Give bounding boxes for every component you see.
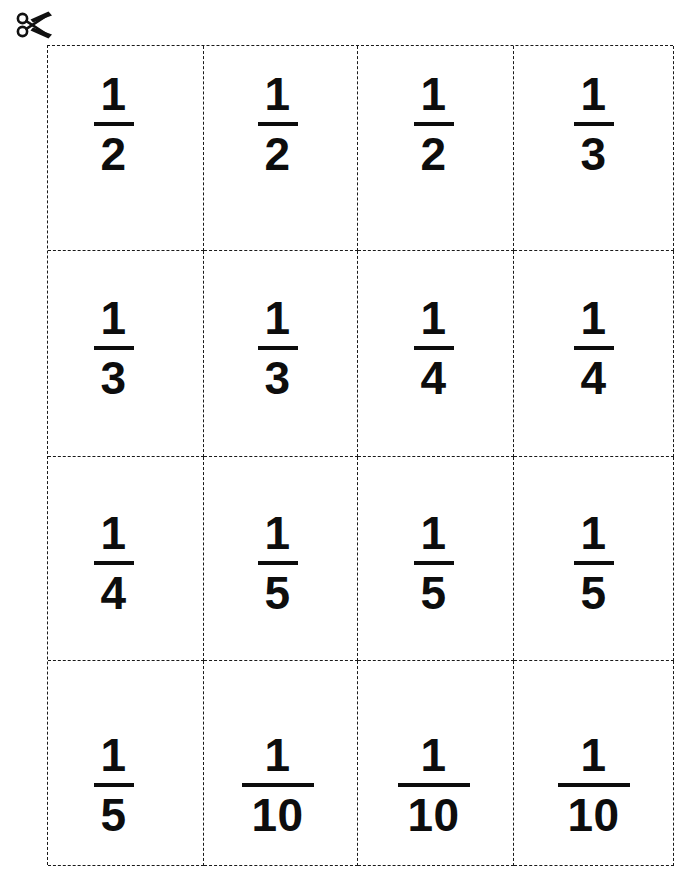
fraction-denominator: 10 [567,790,619,838]
fraction-card: 12 [358,46,514,251]
fraction-numerator: 1 [100,732,126,781]
fraction: 12 [94,71,134,177]
fraction-numerator: 1 [264,510,290,559]
fraction-denominator: 5 [100,790,126,838]
fraction-numerator: 1 [420,295,446,344]
fraction-bar [94,561,134,565]
fraction: 14 [414,295,454,401]
fraction-numerator: 1 [420,71,446,120]
fraction-numerator: 1 [580,71,606,120]
fraction-card: 15 [204,457,358,661]
fraction-denominator: 2 [100,129,126,177]
fraction-card: 15 [48,661,204,866]
fraction-bar [242,783,314,787]
scissors-icon [13,9,57,49]
fraction: 15 [574,510,614,616]
fraction-numerator: 1 [264,295,290,344]
fraction: 13 [574,71,614,177]
fraction-numerator: 1 [100,71,126,120]
fraction-denominator: 10 [251,790,303,838]
fraction-card: 14 [514,251,674,457]
fraction-numerator: 1 [580,732,606,781]
fraction: 14 [94,510,134,616]
fraction-card-grid: 12121213131314141415151515110110110 [47,45,673,865]
fraction: 14 [574,295,614,401]
fraction-card: 110 [514,661,674,866]
fraction-denominator: 4 [100,568,126,616]
fraction-denominator: 5 [264,568,290,616]
fraction-bar [258,346,298,350]
fraction-card: 13 [514,46,674,251]
fraction-numerator: 1 [420,510,446,559]
fraction-denominator: 4 [580,353,606,401]
fraction-bar [94,122,134,126]
fraction-bar [258,122,298,126]
fraction-denominator: 3 [580,129,606,177]
fraction-card: 14 [358,251,514,457]
fraction-denominator: 4 [420,353,446,401]
fraction-numerator: 1 [580,510,606,559]
fraction-bar [258,561,298,565]
fraction-numerator: 1 [100,295,126,344]
fraction-denominator: 10 [407,790,459,838]
fraction-card: 12 [48,46,204,251]
fraction-numerator: 1 [264,71,290,120]
fraction-denominator: 5 [420,568,446,616]
fraction-card: 12 [204,46,358,251]
fraction-card: 15 [358,457,514,661]
fraction-denominator: 3 [264,353,290,401]
fraction-card: 110 [204,661,358,866]
fraction-bar [94,783,134,787]
fraction: 15 [414,510,454,616]
fraction-card: 15 [514,457,674,661]
fraction-denominator: 3 [100,353,126,401]
fraction-card: 14 [48,457,204,661]
fraction-denominator: 2 [420,129,446,177]
fraction: 110 [398,732,470,838]
fraction-bar [94,346,134,350]
fraction: 12 [414,71,454,177]
fraction-numerator: 1 [264,732,290,781]
fraction-bar [414,561,454,565]
fraction-bar [574,122,614,126]
fraction-card: 13 [48,251,204,457]
fraction: 15 [258,510,298,616]
fraction-bar [414,122,454,126]
fraction-card: 110 [358,661,514,866]
fraction-numerator: 1 [420,732,446,781]
fraction-card: 13 [204,251,358,457]
fraction: 15 [94,732,134,838]
fraction-bar [574,346,614,350]
fraction: 12 [258,71,298,177]
fraction-bar [414,346,454,350]
fraction: 110 [242,732,314,838]
fraction-bar [558,783,630,787]
fraction-bar [574,561,614,565]
fraction: 13 [94,295,134,401]
fraction-numerator: 1 [580,295,606,344]
fraction-denominator: 2 [264,129,290,177]
fraction-bar [398,783,470,787]
fraction: 110 [558,732,630,838]
fraction-numerator: 1 [100,510,126,559]
fraction: 13 [258,295,298,401]
fraction-denominator: 5 [580,568,606,616]
